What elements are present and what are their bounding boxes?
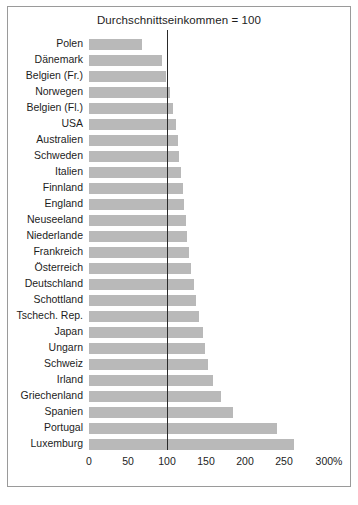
category-label-wrap: Australien [0,133,83,149]
bar-track [89,325,358,341]
bar [89,87,170,98]
bar-row: Ungarn [0,341,358,357]
bar-track [89,213,358,229]
bar [89,135,178,146]
bar [89,327,203,338]
bar-track [89,389,358,405]
category-label-wrap: Belgien (Fl.) [0,101,83,117]
bar [89,375,213,386]
bar-track [89,181,358,197]
bar-row: Griechenland [0,389,358,405]
bar [89,311,199,322]
bar [89,151,179,162]
category-label-wrap: Neuseeland [0,213,83,229]
bar-row: England [0,197,358,213]
category-label-wrap: Schweden [0,149,83,165]
bar-track [89,37,358,53]
category-label-wrap: Belgien (Fr.) [0,69,83,85]
bar-track [89,421,358,437]
category-label-wrap: Irland [0,373,83,389]
bar-row: Schottland [0,293,358,309]
bar [89,39,142,50]
category-label-wrap: Japan [0,325,83,341]
bar-track [89,229,358,245]
x-tick-label: 300% [316,455,343,467]
category-label-wrap: Griechenland [0,389,83,405]
category-label-wrap: Spanien [0,405,83,421]
bar-row: Tschech. Rep. [0,309,358,325]
category-label: Norwegen [1,85,83,101]
category-label: Schottland [1,293,83,309]
bar-row: Spanien [0,405,358,421]
category-label: England [1,197,83,213]
bar-row: Schweden [0,149,358,165]
bar [89,119,176,130]
bar-row: Niederlande [0,229,358,245]
bar-track [89,357,358,373]
category-label: Luxemburg [1,437,83,453]
x-tick-label: 100 [158,455,176,467]
category-label-wrap: Niederlande [0,229,83,245]
bar-row: Italien [0,165,358,181]
bar [89,343,205,354]
category-label-wrap: Finnland [0,181,83,197]
bar-row: Belgien (Fl.) [0,101,358,117]
bar-track [89,165,358,181]
category-label: Ungarn [1,341,83,357]
x-axis: 050100150200250300% [0,455,358,477]
bar-row: Neuseeland [0,213,358,229]
bar [89,215,186,226]
category-label: Deutschland [1,277,83,293]
bar-track [89,133,358,149]
chart-title: Durchschnittseinkommen = 100 [0,14,358,26]
bar-track [89,277,358,293]
category-label: Österreich [1,261,83,277]
bar-row: Irland [0,373,358,389]
category-label-wrap: England [0,197,83,213]
category-label: Tschech. Rep. [1,309,83,325]
category-label: Italien [1,165,83,181]
x-tick-label: 200 [236,455,254,467]
bar-row: Schweiz [0,357,358,373]
bar-track [89,85,358,101]
category-label: Schweiz [1,357,83,373]
bar-track [89,149,358,165]
bar-track [89,437,358,453]
category-label: Irland [1,373,83,389]
x-tick-label: 50 [122,455,134,467]
category-label: Spanien [1,405,83,421]
category-label-wrap: Frankreich [0,245,83,261]
bar-row: Australien [0,133,358,149]
bar-track [89,373,358,389]
category-label-wrap: Ungarn [0,341,83,357]
bar-row: Frankreich [0,245,358,261]
bar [89,295,196,306]
category-label-wrap: USA [0,117,83,133]
bar [89,183,183,194]
bar-row: Portugal [0,421,358,437]
bar-track [89,101,358,117]
bar [89,231,187,242]
bar [89,247,189,258]
category-label-wrap: Portugal [0,421,83,437]
category-label: Dänemark [1,53,83,69]
x-tick-label: 0 [86,455,92,467]
bar [89,359,208,370]
category-label-wrap: Tschech. Rep. [0,309,83,325]
category-label: Polen [1,37,83,53]
bar-track [89,405,358,421]
category-label-wrap: Deutschland [0,277,83,293]
category-label: Griechenland [1,389,83,405]
bar-row: Finnland [0,181,358,197]
bar [89,439,294,450]
category-label-wrap: Österreich [0,261,83,277]
bar-track [89,69,358,85]
category-label-wrap: Dänemark [0,53,83,69]
category-label-wrap: Schweiz [0,357,83,373]
category-label: Japan [1,325,83,341]
category-label: Finnland [1,181,83,197]
category-label: Belgien (Fr.) [1,69,83,85]
category-label: Belgien (Fl.) [1,101,83,117]
bar-row: Norwegen [0,85,358,101]
bar [89,199,184,210]
